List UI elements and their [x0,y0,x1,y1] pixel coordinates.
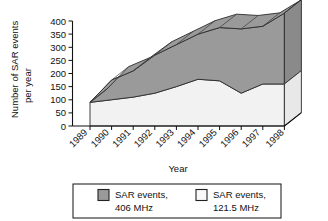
plot-area [90,0,301,126]
legend-swatch-406-icon [98,190,109,201]
band-406-right-face [284,0,301,84]
x-tick-label-1992: 1992 [131,127,154,150]
legend-swatch-121-icon [196,190,207,201]
x-tick-label-1998: 1998 [263,127,286,150]
y-tick-label-350: 350 [50,29,66,40]
y-axis-title: Number of SAR events per year [9,21,33,118]
y-tick-label-400: 400 [50,16,66,27]
x-tick-label-1997: 1997 [239,127,262,150]
y-tick-label-250: 250 [50,55,66,66]
x-tick-label-1989: 1989 [67,127,90,150]
y-axis-title-line2: per year [22,68,33,103]
y-tick-labels: 400 350 300 250 200 150 100 50 0 [50,16,66,132]
y-tick-label-300: 300 [50,42,66,53]
sar-events-figure: 400 350 300 250 200 150 100 50 0 Number … [0,0,328,221]
x-tick-label-1995: 1995 [196,127,219,150]
x-tick-labels: 1989 1990 1991 1992 1993 1994 1995 1996 … [67,127,286,150]
y-tick-label-200: 200 [50,68,66,79]
x-tick-label-1996: 1996 [218,127,241,150]
legend-label-121-line1: SAR events, [213,189,266,200]
legend-label-121-line2: 121.5 MHz [213,202,259,213]
x-tick-label-1994: 1994 [175,127,198,150]
x-tick-label-1991: 1991 [110,127,133,150]
y-tick-label-50: 50 [55,107,66,118]
y-axis-title-line1: Number of SAR events [9,21,20,118]
y-axis [69,21,73,126]
y-tick-label-150: 150 [50,81,66,92]
legend-label-406-line1: SAR events, [115,189,168,200]
x-axis-title: Year [168,163,187,174]
y-tick-label-0: 0 [61,121,66,132]
x-tick-label-1990: 1990 [88,127,111,150]
x-tick-label-1993: 1993 [153,127,176,150]
chart-canvas: 400 350 300 250 200 150 100 50 0 Number … [0,0,328,221]
y-tick-label-100: 100 [50,94,66,105]
legend: SAR events, 406 MHz SAR events, 121.5 MH… [73,184,281,218]
legend-label-406-line2: 406 MHz [115,202,153,213]
